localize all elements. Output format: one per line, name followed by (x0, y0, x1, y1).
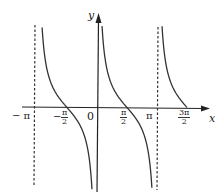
y-axis-arrow-icon (96, 13, 102, 23)
y-axis-label: y (88, 10, 94, 21)
tick-label-neg-half-pi: π 2 (61, 109, 68, 126)
tick-label-neg-pi: − π (12, 111, 30, 121)
curve-branch-2 (102, 26, 152, 188)
curve-branch-3 (162, 26, 187, 107)
asymptote-neg-pi (34, 25, 35, 186)
tick-label-three-half-pi: 3π 2 (178, 109, 190, 126)
x-axis-label: x (209, 113, 215, 124)
cotangent-plot (0, 0, 221, 195)
asymptote-pi (157, 27, 158, 190)
x-axis-arrow-icon (201, 106, 210, 112)
origin-label: 0 (87, 111, 94, 122)
y-axis (97, 20, 99, 192)
tick-label-pi: π (146, 111, 153, 121)
tick-label-half-pi: π 2 (120, 109, 127, 126)
